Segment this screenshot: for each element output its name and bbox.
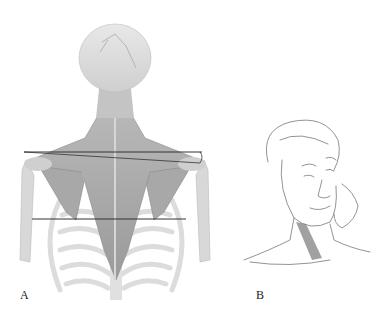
face-outline xyxy=(281,160,336,226)
panel-a-posterior-skeleton: A xyxy=(0,0,230,321)
eye-right xyxy=(326,169,334,171)
left-humerus xyxy=(20,160,34,262)
hand xyxy=(334,184,358,228)
posterior-anatomy-illustration xyxy=(0,0,230,321)
eyebrow-left xyxy=(302,164,316,166)
mouth xyxy=(310,206,330,210)
eye-left xyxy=(304,175,314,177)
shoulder-right xyxy=(330,224,370,252)
shoulder-left xyxy=(244,218,294,260)
panel-b-face-sketch: B xyxy=(230,100,384,321)
eyebrow-right xyxy=(326,157,336,160)
panel-label-b: B xyxy=(256,288,264,303)
face-line-drawing xyxy=(230,100,384,321)
head-outline xyxy=(266,120,339,170)
hairline xyxy=(280,136,328,144)
nose xyxy=(318,180,330,198)
panel-label-a: A xyxy=(20,288,29,303)
left-acromion xyxy=(24,157,52,171)
collar-line xyxy=(250,260,330,265)
right-humerus xyxy=(196,160,210,262)
sternocleidomastoid-muscle xyxy=(296,222,322,260)
